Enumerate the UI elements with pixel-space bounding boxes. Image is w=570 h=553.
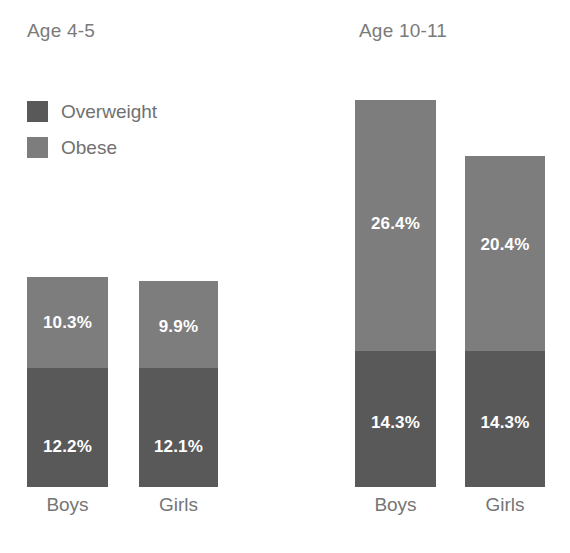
bar-value-overweight: 14.3% bbox=[480, 413, 529, 433]
bar-segment-obese[interactable]: 20.4% bbox=[465, 156, 545, 351]
bar-segment-obese[interactable]: 26.4% bbox=[355, 100, 436, 351]
bar-age-10-11-girls[interactable]: 20.4% 14.3% bbox=[465, 156, 545, 487]
panel-title-age-4-5: Age 4-5 bbox=[27, 20, 95, 42]
legend-swatch-overweight-icon bbox=[27, 101, 48, 122]
legend-swatch-obese-icon bbox=[27, 137, 48, 158]
chart-canvas: Age 4-5 Age 10-11 Overweight Obese 10.3%… bbox=[0, 0, 570, 553]
bar-value-overweight: 12.2% bbox=[43, 437, 92, 457]
category-label-age-4-5-girls: Girls bbox=[139, 494, 218, 516]
legend-item-overweight[interactable]: Overweight bbox=[27, 98, 157, 125]
bar-segment-overweight[interactable]: 12.2% bbox=[27, 368, 108, 487]
legend-label-obese: Obese bbox=[61, 137, 117, 159]
category-label-age-10-11-girls: Girls bbox=[465, 494, 545, 516]
category-label-age-10-11-boys: Boys bbox=[355, 494, 436, 516]
bar-value-obese: 26.4% bbox=[371, 214, 420, 234]
panel-title-age-10-11: Age 10-11 bbox=[359, 20, 447, 42]
bar-value-obese: 10.3% bbox=[43, 313, 92, 333]
bar-age-4-5-girls[interactable]: 9.9% 12.1% bbox=[139, 281, 218, 487]
bar-segment-obese[interactable]: 10.3% bbox=[27, 277, 108, 368]
bar-segment-overweight[interactable]: 12.1% bbox=[139, 368, 218, 487]
bar-value-overweight: 12.1% bbox=[154, 437, 203, 457]
bar-age-4-5-boys[interactable]: 10.3% 12.2% bbox=[27, 277, 108, 487]
bar-value-overweight: 14.3% bbox=[371, 413, 420, 433]
bar-segment-obese[interactable]: 9.9% bbox=[139, 281, 218, 368]
legend-label-overweight: Overweight bbox=[61, 101, 157, 123]
bar-value-obese: 9.9% bbox=[159, 317, 199, 337]
legend-item-obese[interactable]: Obese bbox=[27, 134, 157, 161]
bar-value-obese: 20.4% bbox=[480, 235, 529, 255]
bar-segment-overweight[interactable]: 14.3% bbox=[355, 351, 436, 487]
category-label-age-4-5-boys: Boys bbox=[27, 494, 108, 516]
chart-legend: Overweight Obese bbox=[27, 98, 157, 170]
bar-segment-overweight[interactable]: 14.3% bbox=[465, 351, 545, 487]
bar-age-10-11-boys[interactable]: 26.4% 14.3% bbox=[355, 100, 436, 487]
